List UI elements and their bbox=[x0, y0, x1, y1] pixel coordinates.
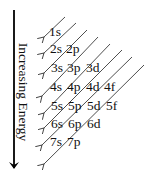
orbital-label: 3p bbox=[67, 60, 81, 75]
aufbau-diagram: Increasing Energy 1s 2s 2p 3s 3p 3d 4s 4… bbox=[0, 0, 151, 182]
row-2: 2s 2p bbox=[50, 41, 80, 56]
orbital-label: 5p bbox=[68, 98, 82, 113]
row-3: 3s 3p 3d bbox=[51, 60, 100, 75]
row-4: 4s 4p 4d 4f bbox=[50, 79, 116, 94]
orbital-label: 6p bbox=[68, 116, 82, 131]
row-5: 5s 5p 5d 5f bbox=[51, 98, 118, 113]
orbital-label: 3s bbox=[51, 60, 63, 75]
orbital-label: 4f bbox=[104, 79, 116, 94]
orbital-label: 3d bbox=[86, 60, 100, 75]
orbital-label: 4p bbox=[67, 79, 81, 94]
energy-axis: Increasing Energy bbox=[14, 10, 31, 168]
orbital-label: 5s bbox=[51, 98, 63, 113]
orbital-label: 7p bbox=[67, 134, 81, 149]
orbital-rows: 1s 2s 2p 3s 3p 3d 4s 4p 4d 4f 5s 5p 5d 5… bbox=[49, 24, 118, 149]
axis-label: Increasing Energy bbox=[16, 43, 31, 142]
row-7: 7s 7p bbox=[50, 134, 81, 149]
row-6: 6s 6p 6d bbox=[51, 116, 101, 131]
orbital-label: 7s bbox=[50, 134, 62, 149]
orbital-label: 4d bbox=[86, 79, 100, 94]
orbital-label: 1s bbox=[49, 24, 61, 39]
orbital-label: 5f bbox=[106, 98, 118, 113]
orbital-label: 2s bbox=[50, 41, 62, 56]
orbital-label: 5d bbox=[87, 98, 101, 113]
orbital-label: 6d bbox=[87, 116, 101, 131]
row-1: 1s bbox=[49, 24, 61, 39]
orbital-label: 6s bbox=[51, 116, 63, 131]
orbital-label: 4s bbox=[50, 79, 62, 94]
orbital-label: 2p bbox=[66, 41, 80, 56]
